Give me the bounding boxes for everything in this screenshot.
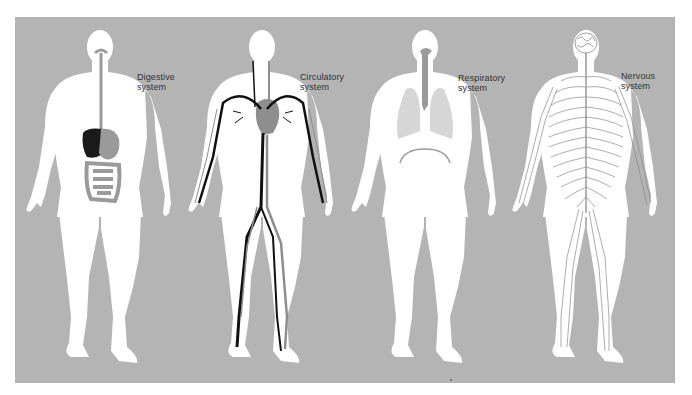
label-digestive: Digestivesystem <box>137 62 175 92</box>
print-speck <box>450 379 452 381</box>
diagram-panel: Digestivesystem <box>15 17 675 383</box>
figure-circulatory-system: Circulatorysystem <box>177 17 347 383</box>
figure-respiratory-system: Respiratorysystem <box>340 17 510 383</box>
figure-digestive-system: Digestivesystem <box>15 17 185 383</box>
figure-nervous-system: Nervoussystem <box>501 17 671 383</box>
label-respiratory: Respiratorysystem <box>458 63 505 93</box>
label-nervous: Nervoussystem <box>621 61 655 91</box>
label-circulatory: Circulatorysystem <box>300 62 344 92</box>
